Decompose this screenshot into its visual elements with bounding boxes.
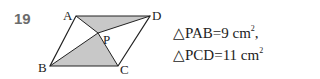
label-a: A [63, 8, 73, 23]
triangle-name: △PAB [173, 25, 213, 41]
area-value: =11 cm [214, 47, 259, 63]
comma: , [255, 25, 259, 41]
area-value: =9 cm [213, 25, 251, 41]
condition-pab: △PAB=9 cm2, [173, 24, 259, 42]
label-d: D [152, 8, 161, 23]
exponent: 2 [259, 46, 263, 55]
label-p: P [103, 32, 110, 47]
condition-pcd: △PCD=11 cm2 [173, 46, 263, 64]
label-c: C [120, 62, 129, 77]
triangle-name: △PCD [173, 47, 214, 63]
label-b: B [38, 60, 47, 75]
